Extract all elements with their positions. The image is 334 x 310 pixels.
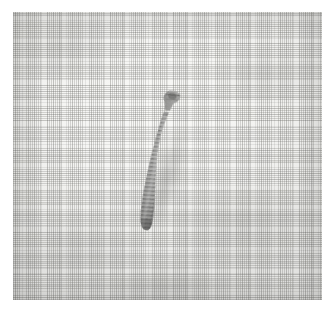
photograph-figure xyxy=(0,0,334,310)
photo-overall-grain xyxy=(13,12,322,300)
photo-plate xyxy=(13,12,322,300)
